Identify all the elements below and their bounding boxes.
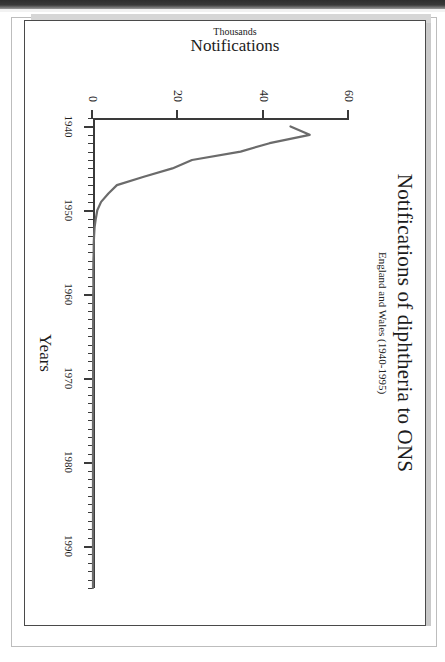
x-axis-tick-label: 1980	[63, 451, 75, 473]
x-axis-tick-label: 1960	[63, 283, 75, 305]
x-axis-major-tick	[84, 462, 93, 464]
x-axis-tick-label: 1990	[63, 535, 75, 557]
scan-edge-band	[0, 0, 445, 9]
x-axis-tick-label: 1970	[63, 367, 75, 389]
x-axis-major-tick	[84, 126, 93, 128]
chart-subtitle: England and Wales (1940-1995)	[377, 23, 389, 623]
plot-area: 194019501960197019801990 0204060 Years T…	[93, 118, 363, 588]
y-axis-tick-label: 20	[170, 90, 185, 102]
x-axis-tick-label: 1950	[63, 199, 75, 221]
chart-stage: Notifications of diphtheria to ONS Engla…	[27, 23, 423, 623]
scan-edge-band-light	[0, 9, 445, 12]
y-axis-tick-label: 40	[255, 90, 270, 102]
y-axis-title-main: Notifications	[155, 37, 315, 55]
x-axis-title: Years	[35, 118, 55, 588]
y-axis-tick	[347, 110, 349, 118]
chart-title: Notifications of diphtheria to ONS	[392, 23, 417, 623]
y-axis-tick-label: 0	[85, 96, 100, 102]
y-axis-tick	[262, 110, 264, 118]
x-axis-major-tick	[84, 378, 93, 380]
x-axis-major-tick	[84, 294, 93, 296]
y-axis-tick-label: 60	[341, 90, 356, 102]
y-axis-title: Thousands Notifications	[155, 26, 315, 55]
x-axis-major-tick	[84, 546, 93, 548]
y-axis-tick	[91, 110, 93, 118]
figure-panel: Notifications of diphtheria to ONS Engla…	[24, 20, 426, 626]
y-axis-tick	[176, 110, 178, 118]
x-axis-tick-label: 1940	[63, 115, 75, 137]
data-series-line	[93, 118, 363, 588]
x-axis-major-tick	[84, 210, 93, 212]
